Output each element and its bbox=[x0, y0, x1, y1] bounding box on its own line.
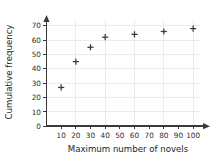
y-tick-label: 30 bbox=[32, 79, 42, 88]
y-axis-ticks: 010203040506070 bbox=[32, 21, 47, 130]
y-axis-arrowhead bbox=[43, 15, 49, 22]
y-tick-label: 0 bbox=[36, 122, 41, 131]
y-tick-label: 10 bbox=[32, 108, 42, 117]
chart-canvas: 010203040506070 102030405060708090100 Ma… bbox=[0, 0, 221, 161]
data-point-marker bbox=[131, 31, 137, 37]
data-point-marker bbox=[87, 44, 93, 50]
grid-lines bbox=[47, 20, 201, 126]
x-axis-title: Maximum number of novels bbox=[68, 144, 189, 154]
y-tick-label: 20 bbox=[32, 93, 42, 102]
x-tick-label: 100 bbox=[186, 131, 200, 140]
y-tick-label: 60 bbox=[32, 36, 42, 45]
x-tick-label: 50 bbox=[115, 131, 125, 140]
y-tick-label: 50 bbox=[32, 50, 42, 59]
y-tick-label: 70 bbox=[32, 21, 42, 30]
cumulative-frequency-chart: 010203040506070 102030405060708090100 Ma… bbox=[0, 0, 221, 161]
x-tick-label: 30 bbox=[86, 131, 96, 140]
x-axis-arrowhead bbox=[203, 123, 210, 129]
x-tick-label: 80 bbox=[159, 131, 169, 140]
y-axis-title: Cumulative frequency bbox=[4, 25, 14, 120]
data-point-marker bbox=[190, 26, 196, 32]
data-point-marker bbox=[73, 59, 79, 65]
x-tick-label: 90 bbox=[174, 131, 184, 140]
y-tick-label: 40 bbox=[32, 64, 42, 73]
x-tick-label: 20 bbox=[71, 131, 81, 140]
data-points bbox=[58, 26, 196, 91]
x-axis-ticks: 102030405060708090100 bbox=[57, 126, 201, 140]
x-tick-label: 70 bbox=[145, 131, 155, 140]
data-point-marker bbox=[161, 28, 167, 34]
data-point-marker bbox=[102, 34, 108, 40]
x-tick-label: 10 bbox=[57, 131, 67, 140]
x-tick-label: 60 bbox=[130, 131, 140, 140]
x-tick-label: 40 bbox=[101, 131, 111, 140]
data-point-marker bbox=[58, 84, 64, 90]
